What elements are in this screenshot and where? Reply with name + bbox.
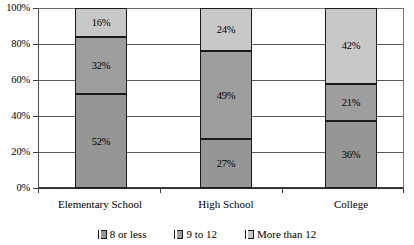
bar-elementary-school: 16% 32% 52% [75,8,127,188]
y-axis-label-100: 100% [0,3,30,14]
bar-segment-9-to-12: 49% [200,51,252,139]
bar-segment-9-to-12: 21% [325,84,377,122]
segment-value-label: 49% [217,90,236,101]
legend-item-8-or-less[interactable]: 8 or less [98,228,147,240]
y-tick-80 [33,44,38,45]
bar-high-school: 24% 49% 27% [200,8,252,188]
segment-value-label: 32% [92,60,111,71]
y-tick-100 [33,8,38,9]
segment-value-label: 27% [217,158,236,169]
y-axis-label-0: 0% [0,183,30,194]
bar-college: 42% 21% 36% [325,8,377,188]
segment-value-label: 21% [342,97,361,108]
y-axis-label-80: 80% [0,39,30,50]
legend-swatch-icon [98,230,107,239]
bar-segment-8-or-less: 36% [325,121,377,188]
y-tick-40 [33,116,38,117]
x-axis-label-elementary-school: Elementary School [40,198,160,211]
y-axis-label-60: 60% [0,75,30,86]
bar-segment-more-than-12: 42% [325,8,377,84]
bar-segment-8-or-less: 27% [200,139,252,188]
legend-item-more-than-12[interactable]: More than 12 [245,228,316,240]
legend-label: 9 to 12 [186,228,217,240]
bar-segment-more-than-12: 24% [200,8,252,51]
x-axis-label-college: College [291,198,411,211]
y-axis-label-40: 40% [0,111,30,122]
x-tick-1 [160,188,161,193]
y-tick-20 [33,152,38,153]
x-tick-2 [282,188,283,193]
legend-swatch-icon [174,230,183,239]
bar-segment-9-to-12: 32% [75,37,127,95]
y-tick-60 [33,80,38,81]
x-axis-label-high-school: High School [166,198,286,211]
x-tick-left [38,188,39,193]
legend-label: More than 12 [257,228,316,240]
segment-value-label: 16% [92,17,111,28]
legend-item-9-to-12[interactable]: 9 to 12 [174,228,217,240]
legend-swatch-icon [245,230,254,239]
segment-value-label: 52% [92,136,111,147]
stacked-bar-chart: 100% 80% 60% 40% 20% 0% 16% 32% 52% 24% … [0,0,414,245]
chart-legend: 8 or less 9 to 12 More than 12 [0,226,414,242]
legend-label: 8 or less [110,228,147,240]
y-axis-label-20: 20% [0,147,30,158]
bar-segment-8-or-less: 52% [75,94,127,188]
bar-segment-more-than-12: 16% [75,8,127,37]
segment-value-label: 36% [342,149,361,160]
x-tick-right [403,188,404,193]
segment-value-label: 42% [342,40,361,51]
segment-value-label: 24% [217,24,236,35]
x-axis-line [38,188,404,189]
